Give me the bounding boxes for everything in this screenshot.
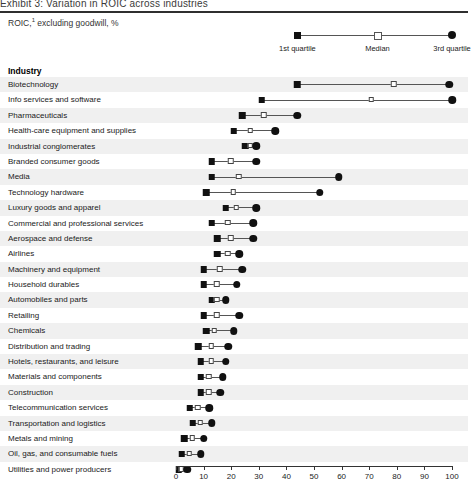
- chart-row[interactable]: Biotechnology: [0, 77, 468, 92]
- marker-first-quartile: [231, 128, 238, 135]
- marker-median: [391, 81, 397, 87]
- legend-label-first-quartile: 1st quartile: [279, 44, 316, 53]
- marker-third-quartile: [222, 358, 230, 366]
- chart-row[interactable]: Machinery and equipment: [0, 262, 468, 277]
- marker-median: [214, 297, 220, 303]
- legend-marker-third-quartile: [448, 31, 456, 39]
- marker-third-quartile: [205, 404, 213, 412]
- marker-third-quartile: [236, 312, 244, 320]
- row-plot: [0, 385, 468, 400]
- axis-tick-label: 40: [282, 472, 291, 481]
- chart-row[interactable]: Aerospace and defense: [0, 231, 468, 246]
- chart-row[interactable]: Technology hardware: [0, 185, 468, 200]
- row-plot: [0, 216, 468, 231]
- row-plot: [0, 169, 468, 184]
- chart-row[interactable]: Construction: [0, 385, 468, 400]
- axis-tick: [286, 466, 287, 470]
- chart-row[interactable]: Health-care equipment and supplies: [0, 123, 468, 138]
- row-plot: [0, 123, 468, 138]
- row-plot: [0, 354, 468, 369]
- marker-median: [231, 189, 237, 195]
- marker-first-quartile: [189, 420, 196, 427]
- legend-label-median: Median: [365, 44, 390, 53]
- marker-first-quartile: [214, 235, 221, 242]
- chart-row[interactable]: Luxury goods and apparel: [0, 200, 468, 215]
- row-plot: [0, 262, 468, 277]
- row-plot: [0, 416, 468, 431]
- marker-median: [214, 281, 220, 287]
- chart-row[interactable]: Industrial conglomerates: [0, 139, 468, 154]
- marker-third-quartile: [208, 419, 216, 427]
- chart-row[interactable]: Media: [0, 169, 468, 184]
- x-axis: 0 10 20 30 40 50 60 70 80 90 100: [0, 466, 468, 496]
- axis-tick-label: 10: [199, 472, 208, 481]
- chart-row[interactable]: Oil, gas, and consumable fuels: [0, 446, 468, 461]
- row-range-line: [206, 192, 319, 193]
- row-plot: [0, 292, 468, 307]
- chart-row[interactable]: Pharmaceuticals: [0, 108, 468, 123]
- marker-median: [225, 220, 231, 226]
- marker-third-quartile: [272, 127, 280, 135]
- chart-row[interactable]: Transportation and logistics: [0, 416, 468, 431]
- marker-median: [198, 420, 204, 426]
- axis-tick-label: 90: [420, 472, 429, 481]
- chart-rows: Biotechnology Info services and software…: [0, 77, 468, 477]
- chart-row[interactable]: Household durables: [0, 277, 468, 292]
- marker-median: [236, 174, 242, 180]
- chart-row[interactable]: Retailing: [0, 308, 468, 323]
- row-plot: [0, 400, 468, 415]
- marker-third-quartile: [230, 327, 238, 335]
- axis-tick: [176, 466, 177, 470]
- row-plot: [0, 108, 468, 123]
- chart-row[interactable]: Automobiles and parts: [0, 292, 468, 307]
- marker-first-quartile: [209, 174, 216, 181]
- row-plot: [0, 231, 468, 246]
- axis-tick-label: 20: [227, 472, 236, 481]
- row-plot: [0, 277, 468, 292]
- marker-third-quartile: [252, 204, 260, 212]
- row-plot: [0, 154, 468, 169]
- chart-row[interactable]: Info services and software: [0, 92, 468, 107]
- marker-median: [228, 158, 234, 164]
- row-range-line: [234, 130, 275, 131]
- chart-row[interactable]: Hotels, restaurants, and leisure: [0, 354, 468, 369]
- marker-median: [187, 451, 193, 457]
- marker-median: [233, 205, 239, 211]
- axis-tick-label: 0: [174, 472, 178, 481]
- marker-first-quartile: [209, 220, 216, 227]
- axis-tick: [342, 466, 343, 470]
- legend-marker-median: [374, 32, 382, 40]
- chart-row[interactable]: Commercial and professional services: [0, 216, 468, 231]
- chart-row[interactable]: Branded consumer goods: [0, 154, 468, 169]
- marker-third-quartile: [335, 173, 343, 181]
- marker-median: [214, 312, 220, 318]
- axis-tick: [397, 466, 398, 470]
- axis-tick: [424, 466, 425, 470]
- row-range-line: [217, 238, 253, 239]
- row-range-line: [212, 177, 339, 178]
- row-range-line: [204, 269, 243, 270]
- marker-first-quartile: [222, 205, 229, 212]
- row-plot: [0, 369, 468, 384]
- chart-row[interactable]: Chemicals: [0, 323, 468, 338]
- marker-third-quartile: [448, 96, 456, 104]
- marker-third-quartile: [250, 235, 258, 243]
- axis-tick: [204, 466, 205, 470]
- exhibit-title: Exhibit 3: Variation in ROIC across indu…: [0, 0, 468, 9]
- title-rule: [0, 11, 468, 13]
- marker-median: [209, 358, 215, 364]
- chart-row[interactable]: Metals and mining: [0, 431, 468, 446]
- marker-median: [261, 112, 267, 118]
- row-plot: [0, 446, 468, 461]
- chart-row[interactable]: Distribution and trading: [0, 339, 468, 354]
- axis-tick: [259, 466, 260, 470]
- row-plot: [0, 323, 468, 338]
- row-plot: [0, 92, 468, 107]
- marker-median: [211, 328, 217, 334]
- chart-row[interactable]: Telecommunication services: [0, 400, 468, 415]
- chart-row[interactable]: Materials and components: [0, 369, 468, 384]
- marker-third-quartile: [222, 296, 230, 304]
- chart-row[interactable]: Airlines: [0, 246, 468, 261]
- marker-third-quartile: [252, 158, 260, 166]
- marker-third-quartile: [200, 435, 208, 443]
